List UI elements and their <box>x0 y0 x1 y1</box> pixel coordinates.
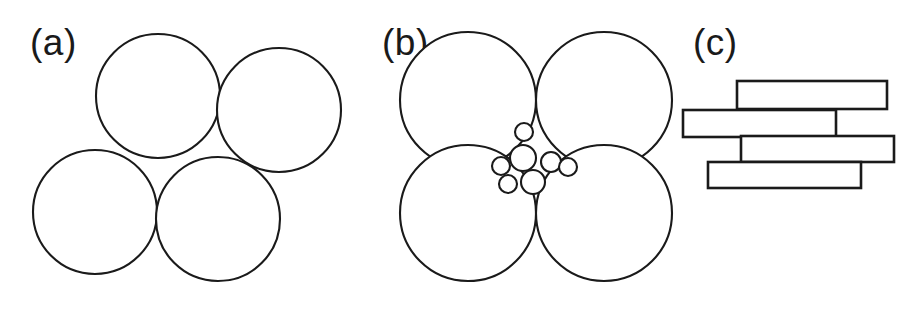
panel-b-small-circle-2 <box>510 145 536 171</box>
panel-c-platelet-2 <box>683 110 836 137</box>
panel-c-label: (c) <box>693 22 738 63</box>
panel-a-label: (a) <box>30 22 77 63</box>
panel-b-small-circle-6 <box>499 175 517 193</box>
panel-a-circle-top-left <box>96 34 220 158</box>
figure-container: (a) (b) <box>0 0 923 311</box>
panel-b-small-circle-5 <box>492 157 510 175</box>
panel-c-platelet-3 <box>741 136 894 162</box>
panel-b-small-circle-7 <box>521 170 545 194</box>
panel-b-small-circle-1 <box>515 123 533 141</box>
panel-c-platelet-1 <box>737 81 887 109</box>
panel-a-circle-bottom-right <box>156 157 280 281</box>
panel-b-small-circle-4 <box>559 158 577 176</box>
panel-b-small-circle-3 <box>541 152 561 172</box>
panel-c-platelet-4 <box>708 162 861 188</box>
panel-a-circle-top-right <box>217 48 341 172</box>
panel-a-circle-bottom-left <box>33 150 157 274</box>
particle-packing-diagram: (a) (b) <box>0 0 923 311</box>
